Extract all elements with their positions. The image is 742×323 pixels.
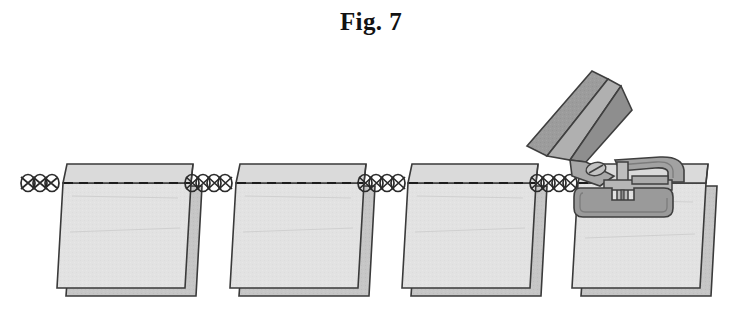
fabric-panel-2-flap xyxy=(236,164,366,183)
fabric-panel-2-front-layer xyxy=(230,183,364,288)
figure-illustration xyxy=(0,0,742,323)
fabric-panel-1-front-layer xyxy=(57,183,191,288)
fabric-panel-3-front-layer xyxy=(402,183,536,288)
sewing-machine-presser-assembly xyxy=(527,71,684,217)
thread-chain-left-tail xyxy=(21,175,59,192)
fabric-panel-3-flap xyxy=(408,164,538,183)
foot-tab xyxy=(632,176,668,184)
figure-container: Fig. 7 xyxy=(0,0,742,323)
fabric-panel-1-flap xyxy=(63,164,193,183)
